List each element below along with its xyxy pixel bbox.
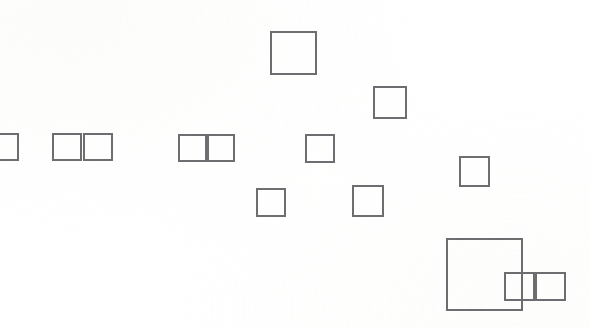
bounding-box (0, 133, 19, 161)
bounding-box (535, 272, 566, 301)
bounding-box (352, 185, 384, 217)
bounding-box (178, 134, 207, 162)
bounding-box-canvas (0, 0, 590, 328)
bounding-box (83, 133, 113, 161)
bounding-box (504, 272, 535, 301)
bounding-box (459, 156, 490, 187)
bounding-box (256, 188, 286, 217)
bounding-box (270, 31, 317, 75)
bounding-box (305, 134, 335, 163)
bounding-box (207, 134, 235, 162)
bounding-box (373, 86, 407, 119)
bounding-box (52, 133, 82, 161)
